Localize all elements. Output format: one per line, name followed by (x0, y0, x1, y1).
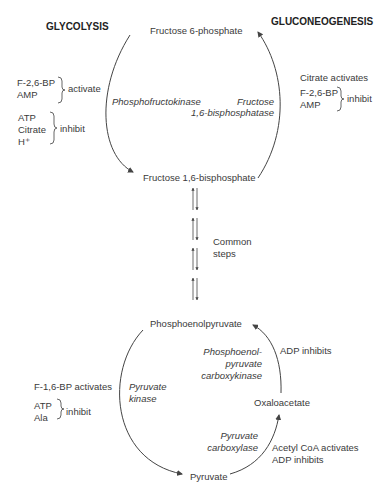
common-steps-arrows (193, 188, 197, 300)
fbpase-activator: Citrate activates (300, 72, 368, 83)
pfk-inhibitor-3: H⁺ (18, 136, 30, 147)
enzyme-pfk: Phosphofructokinase (112, 96, 201, 107)
pfk-inhibit-label: inhibit (60, 123, 85, 134)
enzyme-pc-2: carboxylase (190, 442, 258, 453)
pfk-activate-label: activate (68, 83, 101, 94)
pc-activator: Acetyl CoA activates (272, 442, 359, 453)
enzyme-pepck-1: Phosphoenol- (190, 346, 262, 357)
pfk-activator-1: F-2,6-BP (17, 77, 55, 88)
common-steps-2: steps (213, 248, 236, 259)
gluconeogenesis-header: GLUCONEOGENESIS (271, 16, 373, 27)
enzyme-fbpase-2: 1,6-bisphosphatase (190, 107, 274, 118)
fbpase-inhibit-label: inhibit (347, 93, 372, 104)
enzyme-pk-2: kinase (129, 393, 156, 404)
pk-inhibitor-1: ATP (34, 400, 52, 411)
pfk-inhibitor-2: Citrate (18, 124, 46, 135)
enzyme-fbpase-1: Fructose (210, 96, 274, 107)
pc-inhibitor: ADP inhibits (272, 454, 324, 465)
enzyme-pepck-2: pyruvate (190, 358, 262, 369)
enzyme-pepck-3: carboxykinase (190, 370, 262, 381)
pk-inhibit-label: inhibit (66, 406, 91, 417)
metabolite-pyruvate: Pyruvate (190, 471, 228, 482)
pfk-inhibitor-1: ATP (18, 112, 36, 123)
pepck-inhibitor: ADP inhibits (280, 345, 332, 356)
metabolite-f6p: Fructose 6-phosphate (150, 25, 242, 36)
metabolite-oaa: Oxaloacetate (254, 397, 310, 408)
enzyme-pc-1: Pyruvate (190, 430, 258, 441)
pk-inhibitor-2: Ala (34, 412, 48, 423)
metabolite-f16bp: Fructose 1,6-bisphosphate (143, 172, 255, 183)
fbpase-inhibitor-1: F-2,6-BP (300, 87, 338, 98)
pfk-activator-2: AMP (17, 89, 38, 100)
glycolysis-header: GLYCOLYSIS (46, 21, 109, 32)
fbpase-inhibitor-2: AMP (300, 99, 321, 110)
enzyme-pk-1: Pyruvate (129, 381, 167, 392)
common-steps-1: Common (213, 236, 252, 247)
pk-activator: F-1,6-BP activates (34, 381, 112, 392)
metabolite-pep: Phosphoenolpyruvate (150, 318, 242, 329)
